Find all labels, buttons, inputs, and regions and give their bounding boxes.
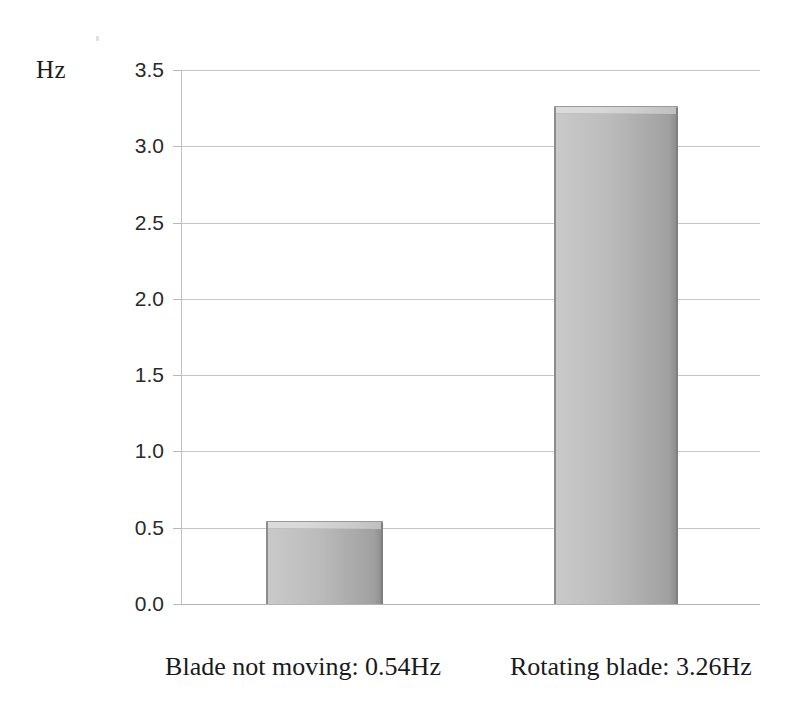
chart-canvas: Hz 3.53.02.52.01.51.00.50.0 Blade not mo… — [0, 0, 802, 705]
y-axis-unit-label: Hz — [36, 56, 66, 84]
gridline — [181, 70, 760, 71]
bar-0 — [266, 522, 383, 604]
y-axis-tick — [173, 375, 182, 376]
y-axis-tick-label: 1.0 — [104, 439, 164, 463]
y-axis-tick — [173, 604, 182, 605]
y-axis-tick-label: 1.5 — [104, 363, 164, 387]
y-axis-tick-label: 3.5 — [104, 58, 164, 82]
y-axis-tick-label: 0.5 — [104, 516, 164, 540]
y-axis-tick-label: 3.0 — [104, 134, 164, 158]
bar-top-highlight — [556, 107, 676, 114]
y-axis-tick — [173, 528, 182, 529]
plot-area — [181, 70, 760, 604]
category-label-0: Blade not moving: 0.54Hz — [163, 652, 443, 682]
bar-1 — [554, 107, 678, 604]
y-axis-tick — [173, 146, 182, 147]
category-label-1: Rotating blade: 3.26Hz — [510, 652, 746, 682]
gridline — [181, 604, 760, 605]
y-axis-tick — [173, 70, 182, 71]
y-axis-tick — [173, 299, 182, 300]
y-axis-tick-label: 2.0 — [104, 287, 164, 311]
y-axis-tick-label: 2.5 — [104, 211, 164, 235]
scan-artifact-speck — [96, 36, 99, 41]
y-axis-tick-labels: 3.53.02.52.01.51.00.50.0 — [100, 70, 164, 604]
bar-top-highlight — [268, 522, 381, 529]
y-axis-tick — [173, 451, 182, 452]
y-axis-tick — [173, 223, 182, 224]
y-axis-tick-label: 0.0 — [104, 592, 164, 616]
